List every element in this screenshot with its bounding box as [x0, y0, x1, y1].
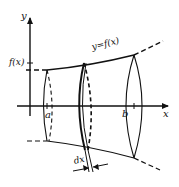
x-axis — [17, 103, 168, 109]
diagram-canvas — [0, 0, 179, 187]
x-axis-label: x — [163, 109, 169, 119]
fx-value-label: f(x) — [9, 58, 24, 67]
solid-of-revolution-diagram: y f(x) y=f(x) a b x dx — [0, 0, 179, 187]
upper-bound-label: b — [122, 109, 128, 119]
y-axis-label: y — [21, 11, 27, 21]
lower-curve — [27, 141, 160, 170]
lower-bound-label: a — [45, 110, 51, 120]
y-axis — [27, 18, 33, 116]
